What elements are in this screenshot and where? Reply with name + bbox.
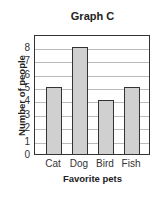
x-tick-label: Cat <box>40 158 66 169</box>
x-tick-label: Dog <box>66 158 92 169</box>
plot-area <box>34 35 150 155</box>
y-tick-label: 4 <box>20 96 30 106</box>
bar-cat <box>46 87 62 154</box>
x-axis-label: Favorite pets <box>34 173 151 184</box>
y-tick-label: 1 <box>20 137 30 147</box>
y-tick-label: 0 <box>20 150 30 160</box>
y-tick-label: 5 <box>20 83 30 93</box>
y-tick-label: 6 <box>20 70 30 80</box>
y-tick-label: 7 <box>20 56 30 66</box>
bar-fish <box>124 87 140 154</box>
bar-dog <box>72 47 88 154</box>
y-tick-label: 2 <box>20 123 30 133</box>
y-tick-label: 8 <box>20 43 30 53</box>
gridline <box>35 76 149 77</box>
chart-title: Graph C <box>34 10 151 22</box>
x-tick-label: Fish <box>118 158 144 169</box>
x-tick-label: Bird <box>92 158 118 169</box>
gridline <box>35 49 149 50</box>
y-tick-label: 3 <box>20 110 30 120</box>
gridline <box>35 62 149 63</box>
bar-bird <box>98 100 114 154</box>
